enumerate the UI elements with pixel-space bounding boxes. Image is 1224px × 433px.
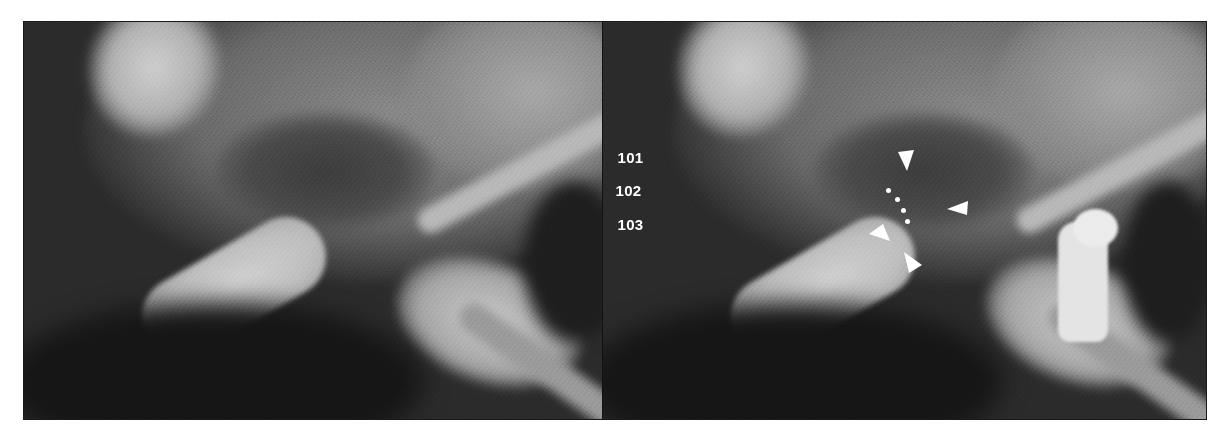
arrowhead-icon [947,199,969,217]
arrowhead-icon [869,224,891,244]
figure-frame: 101 102 103 [23,21,1207,420]
arrowhead-icon [897,150,915,172]
label-102: 102 [616,182,642,199]
radiograph-panel-right: 101 102 103 [602,22,1206,419]
arrowhead-icon [903,252,923,274]
dotted-line-point [905,219,910,224]
label-101: 101 [618,149,644,166]
label-103: 103 [618,216,644,233]
dotted-line-point [901,208,906,213]
dotted-line-point [886,188,891,193]
dotted-line-point [895,197,900,202]
radiograph-panel-left [24,22,602,419]
film-grain [24,22,602,419]
